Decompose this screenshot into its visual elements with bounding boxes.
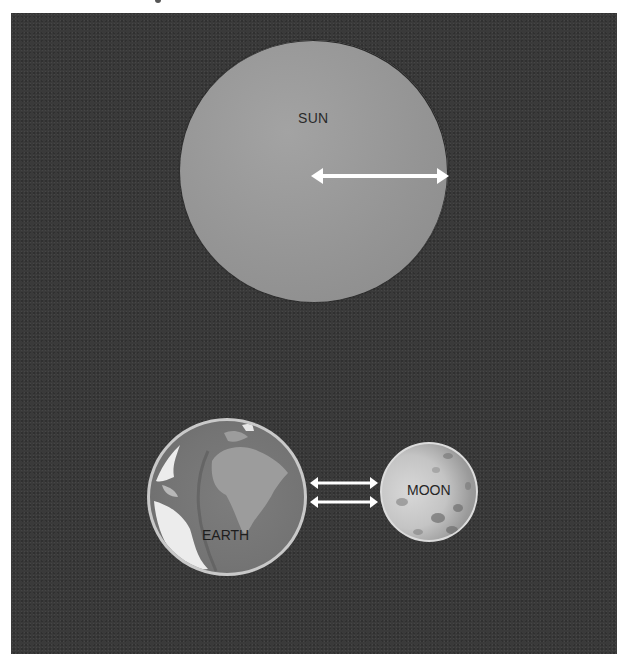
stray-mark — [155, 0, 161, 3]
earth-globe — [147, 418, 307, 576]
earth-continents-icon — [150, 421, 307, 576]
sun-label: SUN — [298, 110, 328, 126]
sun-radius-arrow — [308, 164, 452, 188]
earth-label: EARTH — [202, 527, 249, 543]
earth-moon-arrow-1 — [308, 476, 380, 490]
earth-moon-arrow-2 — [308, 495, 380, 509]
moon-label: MOON — [407, 482, 451, 498]
